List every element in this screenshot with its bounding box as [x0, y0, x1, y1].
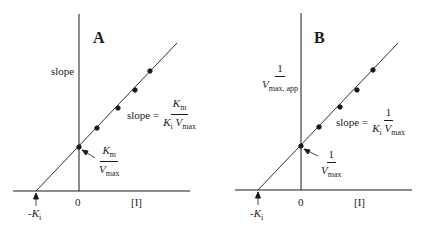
panel-b-data-point	[371, 68, 375, 72]
panel-a-data-point	[95, 126, 99, 130]
arrowhead-icon	[256, 192, 261, 198]
arrowhead-icon	[34, 193, 39, 199]
panel-a-y-label: slope	[51, 66, 74, 77]
panel-a-intercept-label: Km Vmax	[99, 145, 120, 178]
panel-a-letter: A	[93, 30, 105, 46]
slope-eq-lhs: slope =	[336, 116, 368, 128]
panel-b-x-label: [I]	[354, 197, 365, 208]
panel-b-letter: B	[314, 30, 325, 46]
slope-fraction: 1 Ki Vmax	[372, 107, 405, 137]
panel-b-origin-label: 0	[298, 197, 304, 208]
panel-a-data-point	[116, 106, 120, 110]
panel-b-y-label: 1 Vmax, app	[262, 63, 298, 93]
panel-b-data-point	[299, 144, 303, 148]
panel-a-data-point	[77, 145, 81, 149]
slope-fraction: Km Ki Vmax	[163, 98, 196, 131]
panel-b-data-point	[355, 88, 359, 92]
arrowhead-icon	[82, 150, 88, 155]
panel-a-x-label: [I]	[131, 197, 142, 208]
panel-b-data-point	[317, 125, 321, 129]
panel-a-origin-label: 0	[75, 197, 81, 208]
panel-a-neg-ki-label: -Ki	[28, 208, 41, 222]
panel-b-neg-ki-label: -Ki	[250, 208, 263, 222]
slope-eq-lhs: slope =	[127, 109, 159, 121]
arrowhead-icon	[304, 149, 310, 154]
panel-a-data-point	[133, 88, 137, 92]
panel-a-data-point	[148, 69, 152, 73]
panel-a-slope-equation: slope = Km Ki Vmax	[127, 98, 196, 131]
panel-b-intercept-label: 1 Vmax	[321, 149, 342, 179]
panel-b-slope-equation: slope = 1 Ki Vmax	[336, 107, 405, 137]
